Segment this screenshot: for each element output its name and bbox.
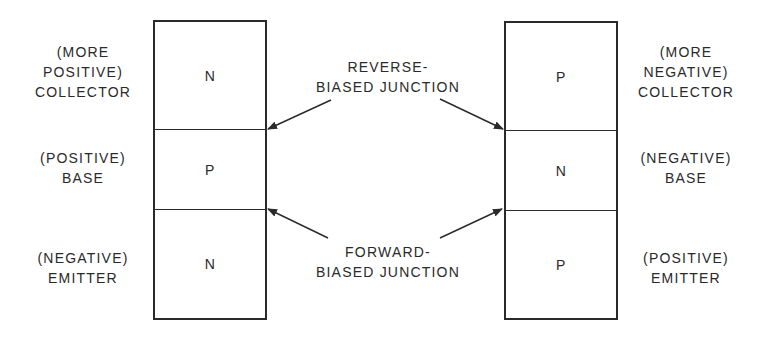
forward-arrow-left-icon (268, 209, 328, 238)
forward-arrow-right-icon (440, 209, 502, 238)
transistor-junction-diagram: N P N P N P (MORE POSITIVE) COLLECTOR (P… (0, 0, 759, 339)
reverse-arrow-right-icon (440, 99, 503, 129)
junction-arrows (0, 0, 759, 339)
reverse-arrow-left-icon (268, 100, 331, 129)
